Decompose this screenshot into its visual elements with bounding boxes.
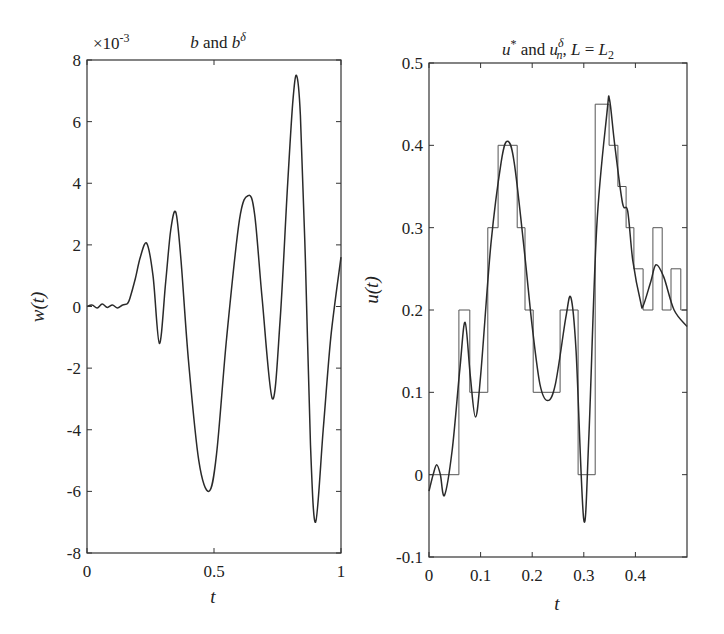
left-curve bbox=[87, 75, 341, 522]
y-tick-label: 4 bbox=[73, 174, 82, 193]
right-x-axis-label: t bbox=[554, 593, 560, 614]
x-tick-label: 0.2 bbox=[522, 566, 543, 585]
figure: b and bδ ×10-3 00.51-8-6-4-202468 t w(t)… bbox=[0, 0, 724, 634]
y-tick-label: -6 bbox=[67, 482, 81, 501]
x-tick-label: 0 bbox=[425, 566, 434, 585]
right-axis-ticks: 00.10.20.30.4-0.100.10.20.30.40.5 bbox=[396, 54, 687, 585]
y-tick-label: -8 bbox=[67, 544, 81, 563]
y-tick-label: 6 bbox=[73, 113, 82, 132]
left-plot-title: b and bδ bbox=[190, 30, 246, 52]
right-curve bbox=[429, 96, 687, 522]
right-y-axis-label: u(t) bbox=[361, 276, 383, 303]
y-multiplier-label: ×10-3 bbox=[93, 31, 130, 53]
left-axis-ticks: 00.51-8-6-4-202468 bbox=[67, 51, 345, 581]
x-tick-label: 1 bbox=[337, 562, 346, 581]
x-tick-label: 0.1 bbox=[470, 566, 491, 585]
left-plot: b and bδ ×10-3 00.51-8-6-4-202468 t w(t) bbox=[27, 30, 345, 607]
y-tick-label: 0.5 bbox=[402, 54, 423, 73]
left-y-axis-label: w(t) bbox=[27, 292, 49, 323]
y-tick-label: 0.1 bbox=[402, 383, 423, 402]
y-tick-label: 0.3 bbox=[402, 219, 423, 238]
left-x-axis-label: t bbox=[210, 586, 216, 607]
x-tick-label: 0 bbox=[83, 562, 92, 581]
y-tick-label: -2 bbox=[67, 359, 81, 378]
y-tick-label: 2 bbox=[73, 236, 82, 255]
x-tick-label: 0.4 bbox=[625, 566, 647, 585]
right-plot: u* and uδn, L = L2 00.10.20.30.4-0.100.1… bbox=[361, 36, 687, 614]
x-tick-label: 0.5 bbox=[203, 562, 224, 581]
y-tick-label: 0.4 bbox=[402, 136, 424, 155]
y-tick-label: 0 bbox=[73, 298, 82, 317]
y-tick-label: 0.2 bbox=[402, 301, 423, 320]
curve-line bbox=[87, 75, 341, 522]
y-tick-label: -0.1 bbox=[396, 548, 423, 567]
right-plot-title: u* and uδn, L = L2 bbox=[502, 36, 614, 62]
x-tick-label: 0.3 bbox=[573, 566, 594, 585]
y-tick-label: -4 bbox=[67, 421, 82, 440]
y-tick-label: 0 bbox=[415, 466, 424, 485]
curve-line bbox=[429, 96, 687, 522]
y-tick-label: 8 bbox=[73, 51, 82, 70]
